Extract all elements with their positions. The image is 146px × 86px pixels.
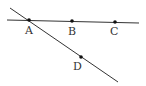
line-ad: [10, 8, 118, 82]
label-b: B: [68, 25, 76, 38]
point-b: [70, 19, 74, 23]
label-d: D: [73, 60, 82, 73]
geometry-diagram: A B C D: [0, 0, 146, 86]
point-d: [79, 55, 83, 59]
point-c: [113, 20, 117, 24]
label-c: C: [110, 25, 118, 38]
label-a: A: [24, 24, 34, 37]
diagram-svg: A B C D: [0, 0, 146, 86]
point-a: [27, 18, 31, 22]
